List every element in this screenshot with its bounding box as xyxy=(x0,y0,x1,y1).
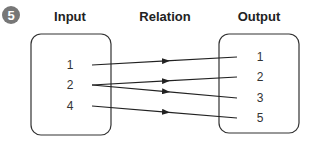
output-value: 3 xyxy=(257,91,264,105)
input-value: 1 xyxy=(67,58,74,72)
input-value: 2 xyxy=(67,78,74,92)
output-value: 5 xyxy=(257,111,264,125)
input-value: 4 xyxy=(67,99,74,113)
mapping-arrow xyxy=(92,77,237,85)
mapping-arrow xyxy=(92,85,237,98)
relation-diagram: 124 1235 xyxy=(0,0,309,143)
output-value: 2 xyxy=(257,70,264,84)
mapping-arrow xyxy=(92,106,237,118)
output-value: 1 xyxy=(257,50,264,64)
mapping-arrow xyxy=(92,57,237,65)
